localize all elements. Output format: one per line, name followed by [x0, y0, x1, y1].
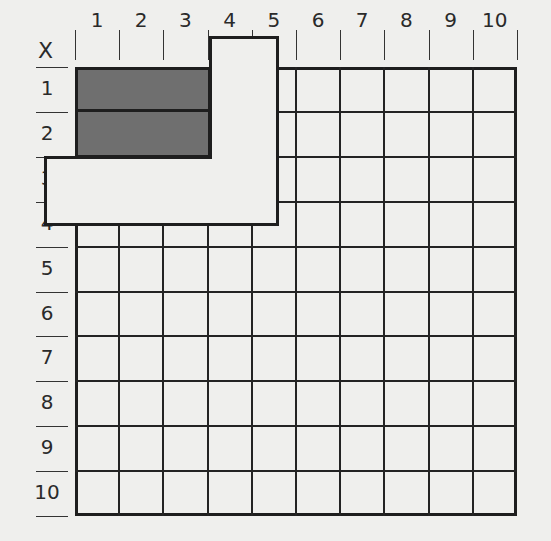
column-label: 3: [163, 8, 207, 32]
row-tick: [36, 336, 68, 337]
grid-row-line: [75, 470, 517, 472]
corner-label: X: [38, 38, 53, 63]
row-tick: [36, 247, 68, 248]
row-label: 5: [32, 256, 62, 280]
overlay-card-bottom: [44, 156, 279, 226]
grid-column-line: [472, 67, 474, 516]
column-label: 2: [119, 8, 163, 32]
column-tick: [429, 30, 430, 60]
row-label: 2: [32, 121, 62, 145]
column-label: 9: [429, 8, 473, 32]
row-tick: [36, 292, 68, 293]
column-tick: [75, 30, 76, 60]
column-tick: [296, 30, 297, 60]
row-tick: [36, 516, 68, 517]
shaded-row-1: [75, 67, 211, 112]
row-label: 1: [32, 76, 62, 100]
column-label: 7: [340, 8, 384, 32]
column-label: 1: [75, 8, 119, 32]
row-tick: [36, 471, 68, 472]
grid-row-line: [75, 335, 517, 337]
grid-row-line: [75, 291, 517, 293]
column-label: 10: [473, 8, 517, 32]
shaded-row-2: [75, 109, 211, 158]
row-label: 9: [32, 435, 62, 459]
row-label: 10: [32, 480, 62, 504]
grid-column-line: [428, 67, 430, 516]
column-tick: [163, 30, 164, 60]
column-label: 5: [252, 8, 296, 32]
row-tick: [36, 426, 68, 427]
column-tick: [473, 30, 474, 60]
column-tick: [384, 30, 385, 60]
row-tick: [36, 67, 68, 68]
row-label: 7: [32, 345, 62, 369]
row-tick: [36, 381, 68, 382]
column-label: 8: [384, 8, 428, 32]
row-label: 8: [32, 390, 62, 414]
column-tick: [340, 30, 341, 60]
column-tick: [517, 30, 518, 60]
grid-column-line: [383, 67, 385, 516]
row-tick: [36, 112, 68, 113]
grid-row-line: [75, 380, 517, 382]
column-label: 4: [208, 8, 252, 32]
grid-row-line: [75, 425, 517, 427]
column-tick: [119, 30, 120, 60]
row-label: 6: [32, 301, 62, 325]
grid-column-line: [339, 67, 341, 516]
column-label: 6: [296, 8, 340, 32]
overlay-card-fill: [212, 150, 276, 162]
